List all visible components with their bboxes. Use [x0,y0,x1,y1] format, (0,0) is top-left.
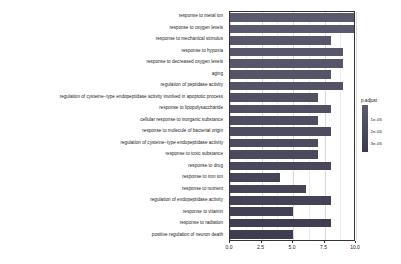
bar-row [230,80,354,91]
bar-row [230,206,354,217]
bar [230,116,318,125]
bar [230,25,354,34]
bar [230,105,331,114]
bar-row [230,183,354,194]
category-label: response to decreased oxygen levels [0,57,226,69]
x-tick-mark [229,241,230,243]
legend-tick-label: 2e-05 [371,128,382,133]
bar [230,59,343,68]
category-label: regulation of peptidase activity [0,80,226,92]
category-label: response to molecule of bacterial origin [0,126,226,138]
category-label: response to radiation [0,218,226,230]
legend-tick-label: 3e-05 [371,140,382,145]
bar-row [230,172,354,183]
bar [230,196,331,205]
bar-row [230,12,354,23]
bar-row [230,23,354,34]
x-tick-label: 0.0 [226,244,233,250]
bar [230,82,343,91]
bar-row [230,126,354,137]
x-tick-mark [261,241,262,243]
bar-row [230,35,354,46]
bar-row [230,46,354,57]
category-label: response to mechanical stimulus [0,34,226,46]
bar [230,93,318,102]
category-label: response to vitamin [0,207,226,219]
category-label: response to drug [0,161,226,173]
bar-row [230,92,354,103]
x-tick-mark [355,241,356,243]
category-label: regulation of cysteine−type endopeptidas… [0,92,226,104]
bar-row [230,217,354,228]
legend-tick-mark [368,131,370,132]
category-label: response to nutrient [0,184,226,196]
category-label: aging [0,69,226,81]
category-label: response to hypoxia [0,46,226,58]
bar-row [230,103,354,114]
legend-tick-mark [368,143,370,144]
bar-series [230,12,354,240]
gridline-major [356,12,357,240]
x-tick-label: 2.5 [257,244,264,250]
category-label: cellular response to inorganic substance [0,115,226,127]
category-label: response to metal ion [0,11,226,23]
bar [230,127,331,136]
category-axis-labels: response to metal ionresponse to oxygen … [0,11,226,241]
legend-p-adjust: p.adjust 1e-052e-053e-05 [361,98,399,160]
bar-row [230,149,354,160]
x-tick-mark [324,241,325,243]
x-axis: 0.02.55.07.510.0 [229,241,355,257]
bar [230,173,280,182]
category-label: response to toxic substance [0,149,226,161]
bar [230,185,306,194]
bar [230,48,343,57]
legend-tick-labels: 1e-052e-053e-05 [368,105,398,152]
x-tick-label: 7.5 [320,244,327,250]
category-label: response to lipopolysaccharide [0,103,226,115]
category-label: response to oxygen levels [0,23,226,35]
plot-panel [229,11,355,241]
bar [230,207,293,216]
x-tick-mark [292,241,293,243]
category-label: regulation of endopeptidase activity [0,195,226,207]
bar [230,230,293,239]
bar [230,219,331,228]
bar-row [230,160,354,171]
bar-row [230,58,354,69]
bar-row [230,69,354,80]
legend-tick-mark [368,119,370,120]
bar-row [230,115,354,126]
bar-row [230,137,354,148]
bar-row [230,195,354,206]
x-tick-label: 5.0 [289,244,296,250]
bar [230,139,318,148]
bar [230,70,331,79]
bar [230,150,318,159]
category-label: response to iron ion [0,172,226,184]
bar [230,36,331,45]
bar-row [230,229,354,240]
category-label: positive regulation of neuron death [0,230,226,242]
x-tick-label: 10.0 [350,244,360,250]
legend-tick-label: 1e-05 [371,117,382,122]
category-label: regulation of cysteine−type endopeptidas… [0,138,226,150]
go-enrichment-bar-chart: response to metal ionresponse to oxygen … [0,0,401,264]
legend-title: p.adjust [361,98,377,103]
bar [230,162,331,171]
bar [230,13,354,22]
